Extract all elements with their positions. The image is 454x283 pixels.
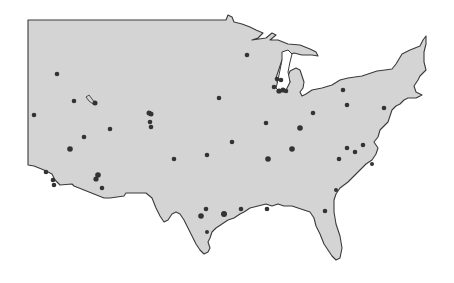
us-map — [0, 0, 454, 283]
map-container — [0, 0, 454, 283]
city-marker — [149, 112, 154, 117]
city-marker — [341, 88, 346, 93]
city-marker — [205, 153, 210, 158]
city-marker — [72, 99, 77, 104]
city-marker — [108, 127, 113, 132]
city-marker — [265, 156, 271, 162]
city-marker — [323, 209, 328, 214]
city-marker — [311, 111, 316, 116]
city-marker — [275, 77, 280, 82]
city-marker — [82, 135, 87, 140]
city-marker — [297, 125, 303, 131]
city-marker — [32, 113, 37, 118]
city-marker — [382, 106, 387, 111]
city-marker — [172, 157, 177, 162]
city-marker — [93, 176, 98, 181]
city-marker — [230, 140, 235, 145]
city-marker — [279, 78, 284, 83]
city-marker — [264, 121, 269, 126]
city-marker — [337, 157, 342, 162]
city-marker — [67, 146, 73, 152]
city-marker — [44, 170, 49, 175]
city-marker — [148, 120, 153, 125]
city-marker — [353, 150, 358, 155]
city-marker — [221, 211, 227, 217]
city-marker — [52, 183, 57, 188]
city-marker — [55, 72, 60, 77]
city-marker — [361, 143, 366, 148]
city-marker — [204, 207, 209, 212]
city-marker — [334, 188, 338, 192]
city-marker — [93, 101, 98, 106]
city-marker — [205, 230, 209, 234]
city-marker — [265, 207, 270, 212]
city-marker — [198, 213, 204, 219]
city-marker — [345, 103, 350, 108]
city-marker — [345, 146, 350, 151]
city-marker — [245, 53, 250, 58]
city-marker — [51, 178, 56, 183]
city-marker — [239, 207, 244, 212]
city-marker — [100, 186, 105, 191]
city-marker — [284, 89, 289, 94]
city-marker — [272, 85, 277, 90]
city-marker — [149, 125, 154, 130]
city-marker — [217, 96, 222, 101]
city-marker — [289, 146, 295, 152]
city-marker — [370, 162, 374, 166]
